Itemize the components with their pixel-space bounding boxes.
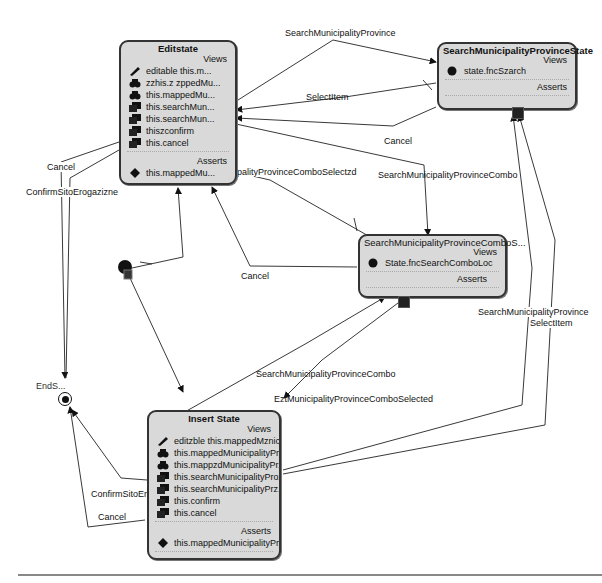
binoculars-icon	[129, 90, 141, 100]
initial-state[interactable]	[117, 258, 137, 286]
view-item[interactable]: State.fncSearchComboLoc	[360, 257, 505, 269]
view-item[interactable]: this.cancel	[149, 507, 279, 519]
divider	[155, 521, 273, 522]
state-title: Editstate	[121, 42, 235, 54]
transition-label[interactable]: SelectItem	[530, 318, 573, 328]
cube-icon	[157, 496, 169, 506]
asserts-section-label: Asserts	[360, 274, 505, 285]
transition-label[interactable]: Cancel	[98, 512, 126, 522]
divider	[155, 551, 273, 552]
end-node-icon	[62, 396, 69, 403]
transition-label[interactable]: SearchMunicipalityProvince	[478, 307, 589, 317]
transition-label[interactable]: Cancel	[384, 136, 412, 146]
views-section-label: Views	[439, 56, 575, 65]
state-title: Insert State	[149, 412, 279, 424]
view-item[interactable]: this.searchMunicipalityPrz...	[149, 483, 279, 495]
cube-icon	[157, 472, 169, 482]
pencil-icon	[129, 66, 141, 76]
binoculars-icon	[129, 78, 141, 88]
view-item[interactable]: this.mappedMunicipalityPr...	[149, 447, 279, 459]
view-item[interactable]: state.fncSzarch	[439, 65, 575, 77]
transition-label[interactable]: EztMunicipalityProvinceComboSelected	[274, 394, 433, 404]
view-item[interactable]: this.mappedMu...	[121, 89, 235, 101]
view-item[interactable]: this.confirm	[149, 495, 279, 507]
transition-label[interactable]: SearchMunicipalityProvinceCombo	[378, 170, 518, 180]
view-item[interactable]: this.searchMun...	[121, 101, 235, 113]
cube-icon	[129, 102, 141, 112]
state-diagram-canvas: SearchMunicipalityProvince SelectItem Ca…	[0, 0, 602, 583]
divider	[445, 79, 569, 80]
view-item[interactable]: thiszconfirm	[121, 125, 235, 137]
views-section-label: Views	[121, 54, 235, 65]
binoculars-icon	[157, 460, 169, 470]
assert-item[interactable]: this.mappedMu...	[121, 167, 235, 179]
cube-icon	[129, 138, 141, 148]
history-connector-icon	[512, 107, 524, 119]
view-item[interactable]: zzhis.z zppedMu...	[121, 77, 235, 89]
views-section-label: Views	[360, 248, 505, 257]
transition-label[interactable]: ConfirmSitoErogazizne	[26, 187, 118, 197]
transition-label[interactable]: SelectItem	[306, 92, 349, 102]
divider	[445, 95, 569, 96]
initial-node-icon	[117, 258, 137, 282]
transition-label[interactable]: Cancel	[241, 271, 269, 281]
assert-item[interactable]: this.mappedMunicipalityPr...	[149, 537, 279, 549]
divider	[127, 151, 229, 152]
diamond-icon	[157, 538, 169, 548]
circle-icon	[447, 66, 459, 76]
view-item[interactable]: this.mappzdMunicipalityPr...	[149, 459, 279, 471]
bottom-divider	[18, 574, 602, 576]
history-connector-icon	[398, 296, 410, 308]
state-edit[interactable]: Editstate Views editable this.m... zzhis…	[119, 40, 237, 185]
cube-icon	[129, 126, 141, 136]
state-insert[interactable]: Insert State Views editzble this.mappedM…	[147, 410, 281, 560]
view-item[interactable]: this.searchMunicipalityProz...	[149, 471, 279, 483]
cube-icon	[129, 114, 141, 124]
view-item[interactable]: editable this.m...	[121, 65, 235, 77]
view-item[interactable]: editzble this.mappedMznic...	[149, 435, 279, 447]
circle-icon	[368, 258, 380, 268]
transition-label[interactable]: SearchMunicipalityProvince	[285, 28, 396, 38]
views-list: editable this.m... zzhis.z zppedMu... th…	[121, 65, 235, 149]
end-state[interactable]	[58, 392, 72, 406]
state-search-municipality-province-combo[interactable]: SearchMunicipalityProvinceComboS... View…	[358, 234, 507, 298]
pencil-icon	[157, 436, 169, 446]
cube-icon	[157, 484, 169, 494]
asserts-section-label: Asserts	[149, 526, 279, 537]
binoculars-icon	[157, 448, 169, 458]
views-section-label: Views	[149, 424, 279, 435]
transition-label[interactable]: SearchMunicipalityProvinceCombo	[256, 369, 396, 379]
view-item[interactable]: this.cancel	[121, 137, 235, 149]
divider	[366, 287, 499, 288]
view-item[interactable]: this.searchMun...	[121, 113, 235, 125]
asserts-section-label: Asserts	[121, 156, 235, 167]
views-list: editzble this.mappedMznic... this.mapped…	[149, 435, 279, 519]
diamond-icon	[129, 168, 141, 178]
end-state-label: EndS...	[36, 381, 66, 391]
divider	[366, 271, 499, 272]
cube-icon	[157, 508, 169, 518]
transition-label[interactable]: Cancel	[47, 162, 75, 172]
asserts-section-label: Asserts	[439, 82, 575, 93]
state-search-municipality-province[interactable]: SearchMunicipalityProvinceState Views st…	[437, 42, 577, 110]
